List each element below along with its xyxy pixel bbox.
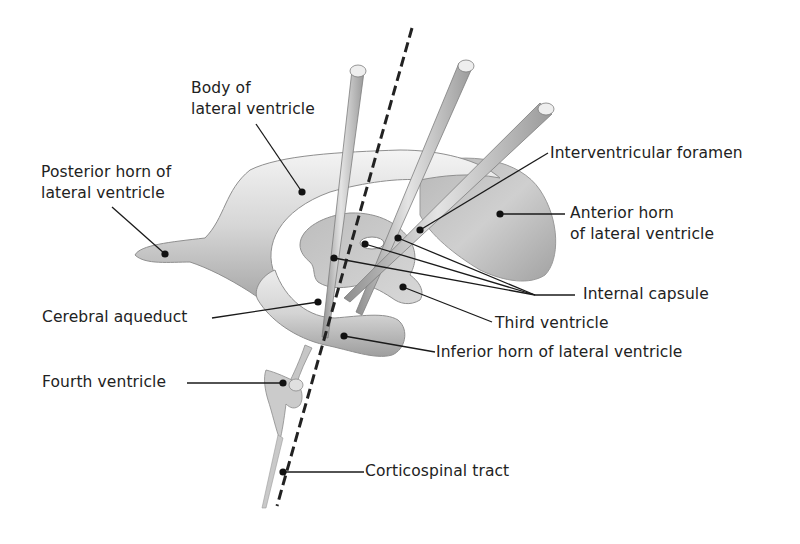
label-third-ventricle: Third ventricle — [495, 313, 609, 334]
label-internal-capsule: Internal capsule — [583, 284, 709, 305]
label-body-of-lateral-ventricle: Body of lateral ventricle — [191, 78, 315, 120]
fourth-ventricle-lateral-recess — [289, 379, 303, 391]
label-inferior-horn: Inferior horn of lateral ventricle — [436, 342, 682, 363]
label-fourth-ventricle: Fourth ventricle — [42, 372, 166, 393]
label-anterior-horn: Anterior horn of lateral ventricle — [570, 203, 714, 245]
label-corticospinal-tract: Corticospinal tract — [365, 461, 509, 482]
label-posterior-horn: Posterior horn of lateral ventricle — [41, 162, 171, 204]
label-interventricular-foramen: Interventricular foramen — [550, 143, 743, 164]
label-cerebral-aqueduct: Cerebral aqueduct — [42, 307, 188, 328]
